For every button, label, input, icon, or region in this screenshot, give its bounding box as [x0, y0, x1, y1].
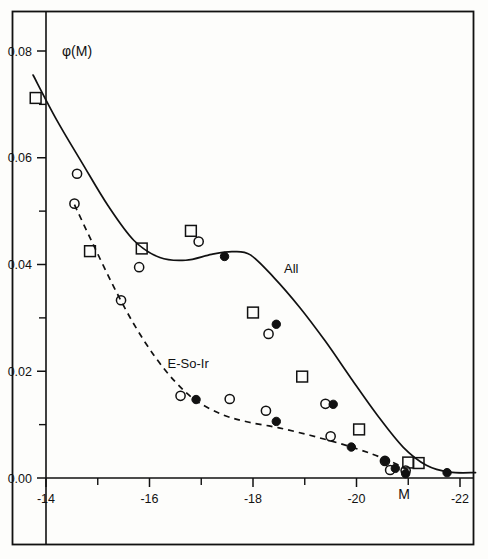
marker-open-circle — [225, 394, 234, 403]
marker-open-square — [354, 424, 365, 435]
y-tick-label: 0.06 — [8, 151, 32, 165]
marker-open-square — [297, 371, 308, 382]
marker-open-circle — [261, 406, 270, 415]
y-tick-label: 0.00 — [8, 472, 32, 486]
x-axis-title: M — [398, 486, 410, 502]
y-tick-label: 0.08 — [8, 45, 32, 59]
x-tick-label: -22 — [451, 492, 469, 506]
marker-open-circle — [176, 391, 185, 400]
marker-open-circle — [72, 169, 81, 178]
marker-open-circle — [70, 199, 79, 208]
marker-filled-circle — [347, 443, 355, 451]
curve-e-so-ir — [74, 205, 410, 472]
curve-label-all: All — [284, 261, 299, 276]
x-tick-label: -18 — [244, 492, 262, 506]
marker-open-circle — [194, 237, 203, 246]
marker-open-circle — [326, 432, 335, 441]
figure-frame — [13, 12, 474, 545]
marker-filled-circle — [443, 468, 451, 476]
marker-filled-circle — [192, 395, 200, 403]
marker-open-square — [186, 225, 197, 236]
x-tick-label: -14 — [37, 492, 55, 506]
x-tick-label: -20 — [347, 492, 365, 506]
data-markers — [30, 93, 451, 478]
marker-open-square — [30, 93, 41, 104]
data-curves — [33, 75, 475, 473]
curve-all — [33, 75, 475, 473]
y-axis: 0.080.060.040.020.00 — [8, 11, 46, 545]
marker-open-circle — [116, 296, 125, 305]
marker-filled-circle — [220, 252, 228, 260]
curve-annotations: AllE-So-Ir — [168, 261, 299, 371]
marker-open-circle — [135, 263, 144, 272]
figure-container: 0.080.060.040.020.00 -14-16-18-20-22 All… — [0, 0, 488, 559]
marker-filled-circle — [329, 400, 337, 408]
curve-label-e-so-ir: E-So-Ir — [168, 356, 210, 371]
marker-filled-circle — [272, 320, 280, 328]
y-tick-label: 0.04 — [8, 258, 32, 272]
marker-open-square — [248, 307, 259, 318]
marker-filled-circle — [391, 464, 399, 472]
x-tick-label: -16 — [140, 492, 158, 506]
marker-filled-circle — [272, 417, 280, 425]
chart-canvas: 0.080.060.040.020.00 -14-16-18-20-22 All… — [0, 0, 488, 559]
marker-open-circle — [264, 329, 273, 338]
y-tick-label: 0.02 — [8, 365, 32, 379]
y-axis-title: φ(M) — [62, 43, 92, 59]
